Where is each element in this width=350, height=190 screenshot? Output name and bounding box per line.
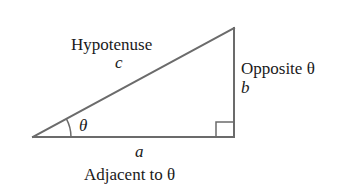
hypotenuse-label: Hypotenuse: [71, 35, 152, 54]
opposite-label: Opposite θ: [241, 59, 315, 78]
right-triangle-diagram: Hypotenuse c Opposite θ b θ a Adjacent t…: [0, 0, 350, 190]
opposite-variable: b: [241, 78, 250, 97]
hypotenuse-variable: c: [115, 53, 123, 72]
angle-arc-icon: [66, 119, 71, 137]
adjacent-label: Adjacent to θ: [84, 165, 175, 184]
right-angle-marker: [216, 122, 234, 137]
angle-theta-label: θ: [79, 116, 87, 135]
adjacent-variable: a: [135, 142, 144, 161]
